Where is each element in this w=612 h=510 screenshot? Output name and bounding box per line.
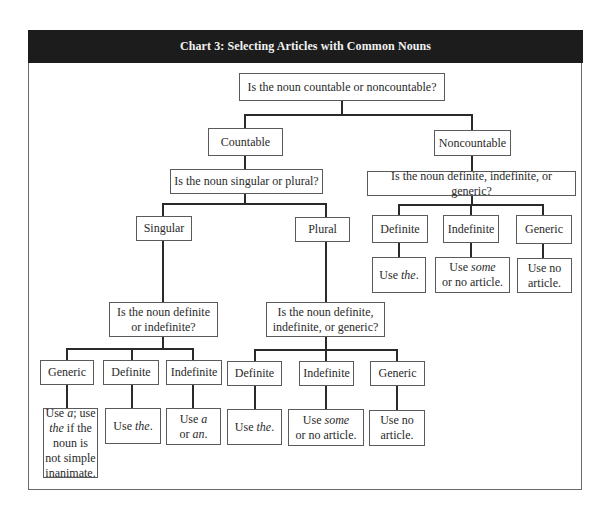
- connector: [396, 385, 398, 410]
- node-text: Definite: [111, 365, 150, 380]
- result-text: Use noarticle.: [528, 261, 562, 291]
- node-singular: Singular: [136, 216, 192, 241]
- noncountable-indefinite-result: Use someor no article.: [435, 257, 510, 293]
- connector: [66, 348, 194, 350]
- connector: [162, 203, 327, 205]
- connector: [325, 241, 327, 302]
- node-text: Indefinite: [303, 366, 350, 381]
- connector: [398, 242, 400, 257]
- noncountable-generic-result: Use noarticle.: [517, 258, 572, 293]
- root-question: Is the noun countable or noncountable?: [239, 73, 445, 101]
- noncountable-definite: Definite: [372, 215, 428, 243]
- connector: [471, 114, 473, 130]
- singular-generic-result: Use a; usethe if thenoun isnot simpleina…: [43, 408, 98, 478]
- connector: [325, 349, 327, 361]
- singular-generic: Generic: [40, 360, 94, 385]
- result-text: Use the.: [113, 419, 152, 434]
- node-text: Generic: [48, 365, 86, 380]
- plural-indefinite: Indefinite: [299, 361, 354, 386]
- node-text: Is the noun definite,indefinite, or gene…: [273, 305, 379, 335]
- chart-title: Chart 3: Selecting Articles with Common …: [28, 30, 583, 63]
- connector: [254, 349, 256, 361]
- result-text: Use someor no article.: [442, 260, 503, 290]
- node-text: Definite: [235, 366, 274, 381]
- plural-generic: Generic: [370, 361, 425, 386]
- connector: [542, 243, 544, 258]
- noncountable-definite-result: Use the.: [372, 257, 426, 293]
- connector: [66, 348, 68, 360]
- connector: [131, 348, 133, 360]
- node-plural: Plural: [295, 217, 350, 242]
- node-text: Is the noun definite, indefinite, or gen…: [370, 169, 573, 199]
- connector: [325, 336, 327, 349]
- result-text: Use someor no article.: [296, 413, 357, 443]
- plural-indefinite-result: Use someor no article.: [288, 409, 364, 446]
- plural-definite-result: Use the.: [227, 409, 282, 445]
- node-text: Definite: [380, 222, 419, 237]
- node-text: Is the noun singular or plural?: [174, 174, 318, 189]
- connector: [254, 385, 256, 409]
- connector: [470, 242, 472, 257]
- connector: [192, 348, 194, 360]
- result-text: Use aor an.: [180, 412, 208, 442]
- connector: [398, 204, 400, 215]
- countable-question: Is the noun singular or plural?: [170, 169, 323, 194]
- noncountable-indefinite: Indefinite: [443, 215, 499, 243]
- node-text: Generic: [379, 366, 417, 381]
- node-countable: Countable: [208, 128, 283, 156]
- connector: [341, 100, 343, 115]
- connector: [244, 155, 246, 169]
- connector: [244, 193, 246, 203]
- plural-question: Is the noun definite,indefinite, or gene…: [266, 302, 385, 337]
- connector: [396, 349, 398, 361]
- result-text: Use the.: [379, 268, 418, 283]
- noncountable-question: Is the noun definite, indefinite, or gen…: [367, 171, 576, 196]
- plural-definite: Definite: [227, 361, 282, 386]
- connector: [325, 203, 327, 217]
- noncountable-generic: Generic: [516, 215, 572, 244]
- singular-indefinite: Indefinite: [166, 360, 222, 385]
- node-text: Singular: [144, 221, 185, 236]
- singular-definite: Definite: [103, 360, 159, 385]
- node-text: Indefinite: [448, 222, 495, 237]
- node-text: Plural: [308, 222, 337, 237]
- node-text: Is the noun countable or noncountable?: [248, 80, 437, 95]
- connector: [325, 385, 327, 409]
- plural-generic-result: Use noarticle.: [369, 410, 425, 446]
- singular-indefinite-result: Use aor an.: [166, 408, 221, 445]
- connector: [192, 384, 194, 408]
- singular-question: Is the noun definiteor indefinite?: [109, 302, 218, 337]
- node-text: Is the noun definiteor indefinite?: [117, 305, 210, 335]
- node-text: Noncountable: [439, 136, 506, 151]
- connector: [542, 204, 544, 215]
- node-noncountable: Noncountable: [434, 130, 511, 156]
- connector: [162, 240, 164, 302]
- connector: [244, 114, 246, 128]
- node-text: Generic: [525, 222, 563, 237]
- connector: [244, 114, 473, 116]
- connector: [470, 204, 472, 215]
- singular-definite-result: Use the.: [105, 408, 161, 444]
- connector: [66, 384, 68, 408]
- result-text: Use noarticle.: [380, 413, 414, 443]
- result-text: Use the.: [235, 420, 274, 435]
- connector: [131, 384, 133, 408]
- connector: [162, 203, 164, 216]
- node-text: Indefinite: [171, 365, 218, 380]
- result-text: Use a; usethe if thenoun isnot simpleina…: [45, 406, 95, 481]
- node-text: Countable: [221, 135, 270, 150]
